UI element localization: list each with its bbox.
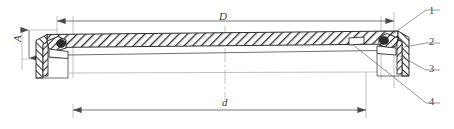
dimension-label-A: A [12,35,23,42]
right-rim-seal-detail [349,31,409,76]
callout-label-3: 3 [429,64,434,75]
cross-section-drawing [0,0,454,129]
callout-label-4: 4 [429,97,434,108]
cover-plate-section [47,31,398,48]
callout-leader-lines [352,10,440,103]
left-rim-seal-detail [36,35,68,79]
technical-drawing-canvas: D d A 1 2 3 4 [0,0,454,129]
extension-lines [22,12,394,118]
callout-label-2: 2 [429,37,434,48]
inner-reference-line [68,51,377,74]
dimension-label-d: d [222,97,228,108]
dimension-label-D: D [219,11,227,22]
callout-label-1: 1 [429,6,434,17]
